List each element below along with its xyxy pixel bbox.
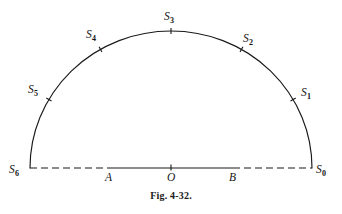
arc-label-letter: S: [164, 10, 170, 22]
arc-label-subscript: 6: [15, 169, 19, 178]
arc-label-s5: S5: [28, 84, 38, 96]
arc-label-s1: S1: [301, 87, 311, 99]
figure-container: S0S1S2S3S4S5S6 AOB Fig. 4-32.: [0, 0, 342, 214]
arc-label-subscript: 0: [322, 169, 326, 178]
arc-label-s4: S4: [86, 29, 96, 41]
arc-tick-group: [46, 28, 295, 101]
arc-label-letter: S: [316, 163, 322, 175]
baseline-group: [30, 165, 312, 171]
arc-label-letter: S: [301, 86, 307, 98]
arc-label-subscript: 2: [249, 38, 253, 47]
arc-label-s0: S0: [316, 164, 326, 176]
baseline-label-a: A: [105, 172, 112, 184]
arc-label-s6: S6: [9, 164, 19, 176]
semicircle-arc: [30, 31, 312, 168]
arc-label-subscript: 5: [34, 89, 38, 98]
arc-label-s3: S3: [164, 11, 174, 23]
arc-label-letter: S: [86, 28, 92, 40]
arc-label-letter: S: [243, 32, 249, 44]
arc-label-letter: S: [28, 83, 34, 95]
arc-label-subscript: 1: [307, 92, 311, 101]
arc-label-letter: S: [9, 163, 15, 175]
figure-caption: Fig. 4-32.: [0, 190, 342, 201]
arc-label-subscript: 3: [170, 16, 174, 25]
arc-label-s2: S2: [243, 33, 253, 45]
baseline-label-o: O: [167, 172, 175, 184]
baseline-label-b: B: [229, 172, 236, 184]
arc-group: [30, 31, 312, 168]
arc-label-subscript: 4: [92, 34, 96, 43]
